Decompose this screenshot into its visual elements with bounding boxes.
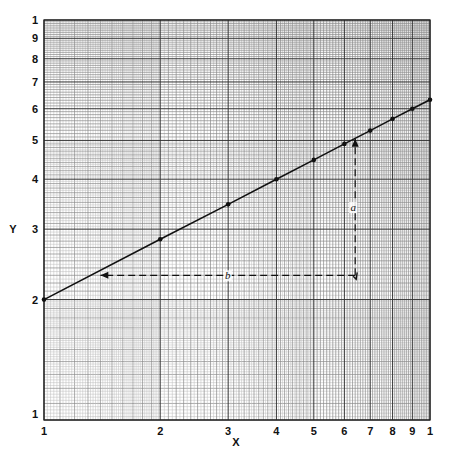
x-tick-label: 1 <box>427 425 433 437</box>
minor-grid <box>44 20 430 420</box>
y-tick-label: 3 <box>32 223 38 235</box>
data-point <box>368 128 373 133</box>
x-tick-label: 2 <box>157 425 163 437</box>
data-point <box>158 237 163 242</box>
y-tick-label: 9 <box>32 32 38 44</box>
y-axis-label: Y <box>9 223 17 235</box>
y-tick-label: 5 <box>32 134 38 146</box>
x-tick-label: 7 <box>367 425 373 437</box>
data-point <box>226 202 231 207</box>
data-point <box>312 158 317 163</box>
y-tick-label: 1 <box>32 14 38 26</box>
x-axis-label: X <box>232 436 240 448</box>
y-tick-label: 6 <box>32 103 38 115</box>
x-tick-label: 8 <box>390 425 396 437</box>
annotation-label-b: b <box>225 269 231 281</box>
x-tick-label: 9 <box>409 425 415 437</box>
x-tick-label: 1 <box>41 425 47 437</box>
b-arrowhead-icon <box>100 272 108 279</box>
y-tick-label: 2 <box>32 294 38 306</box>
y-tick-label: 8 <box>32 53 38 65</box>
major-grid <box>44 20 430 420</box>
x-tick-label: 6 <box>341 425 347 437</box>
data-point <box>390 117 395 122</box>
log-log-chart: 1234567891 1234567891 X Y ba <box>0 0 452 453</box>
y-tick-label: 4 <box>32 173 39 185</box>
x-tick-label: 5 <box>311 425 317 437</box>
y-tick-label: 7 <box>32 76 38 88</box>
data-point <box>410 106 415 111</box>
data-point <box>274 177 279 182</box>
data-point <box>428 97 433 102</box>
y-axis-ticks: 1234567891 <box>32 14 39 420</box>
data-point <box>342 142 347 147</box>
plot-frame <box>44 20 430 420</box>
y-tick-label: 1 <box>32 408 38 420</box>
annotation-label-a: a <box>350 201 356 213</box>
x-tick-label: 4 <box>273 425 280 437</box>
x-tick-label: 3 <box>225 425 231 437</box>
data-point <box>42 297 47 302</box>
